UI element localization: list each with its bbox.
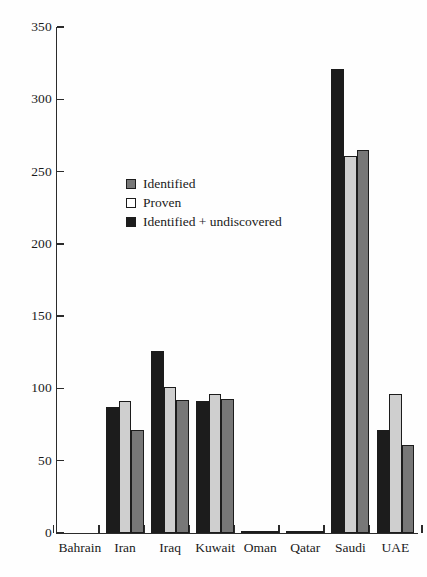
bar-iran-identified-undiscovered (106, 407, 119, 533)
bar-qatar-identified (312, 531, 325, 533)
legend-label: Proven (143, 196, 181, 210)
y-tick-50 (57, 460, 64, 461)
bar-saudi-identified-undiscovered (331, 69, 344, 533)
y-tick-label: 100 (4, 381, 52, 395)
legend-item-proven[interactable]: Proven (126, 195, 282, 211)
bar-oman-identified-undiscovered (241, 531, 254, 533)
x-axis-label-bahrain: Bahrain (59, 540, 102, 556)
bar-oman-proven (254, 531, 267, 533)
y-tick-label: 300 (4, 92, 52, 106)
bar-oman-identified (267, 531, 280, 533)
chart-legend: IdentifiedProvenIdentified + undiscovere… (126, 176, 282, 233)
y-tick-150 (57, 315, 64, 316)
y-tick-100 (57, 388, 64, 389)
x-axis-label-iraq: Iraq (159, 540, 181, 556)
bar-iran-proven (119, 401, 132, 533)
bar-kuwait-identified (221, 399, 234, 533)
y-tick-350 (57, 26, 64, 27)
y-tick-label: 0 (4, 526, 52, 540)
legend-label: Identified + undiscovered (143, 215, 282, 229)
x-tick-bahrain (53, 525, 54, 533)
legend-swatch-icon (126, 179, 136, 189)
bar-kuwait-proven (209, 394, 222, 533)
x-tick-end (421, 525, 422, 533)
bar-iraq-identified (176, 400, 189, 533)
bar-iraq-identified-undiscovered (151, 351, 164, 533)
y-tick-300 (57, 99, 64, 100)
bar-qatar-proven (299, 531, 312, 533)
y-axis-line (56, 27, 57, 534)
x-axis-label-iran: Iran (114, 540, 136, 556)
legend-swatch-icon (126, 217, 136, 227)
x-tick-iran (98, 525, 99, 533)
x-axis-label-saudi: Saudi (335, 540, 366, 556)
bar-uae-proven (389, 394, 402, 533)
y-tick-250 (57, 171, 64, 172)
plot-area: 050100150200250300350 BahrainIranIraqKuw… (0, 0, 427, 577)
bar-saudi-proven (344, 156, 357, 533)
bar-kuwait-identified-undiscovered (196, 401, 209, 533)
y-tick-label: 250 (4, 165, 52, 179)
bar-chart: 050100150200250300350 BahrainIranIraqKuw… (0, 0, 427, 577)
x-axis-label-kuwait: Kuwait (195, 540, 235, 556)
x-axis-line (56, 533, 418, 534)
x-axis-label-qatar: Qatar (290, 540, 320, 556)
legend-label: Identified (143, 177, 195, 191)
y-tick-200 (57, 243, 64, 244)
bar-iran-identified (131, 430, 144, 533)
bar-saudi-identified (357, 150, 370, 533)
y-tick-0 (57, 532, 64, 533)
bar-uae-identified-undiscovered (377, 430, 390, 533)
y-tick-label: 200 (4, 237, 52, 251)
bar-iraq-proven (164, 387, 177, 533)
y-tick-label: 150 (4, 309, 52, 323)
legend-item-identified-undiscovered[interactable]: Identified + undiscovered (126, 214, 282, 230)
x-axis-label-oman: Oman (244, 540, 277, 556)
legend-item-identified[interactable]: Identified (126, 176, 282, 192)
x-axis-label-uae: UAE (382, 540, 410, 556)
y-tick-label: 50 (4, 454, 52, 468)
legend-swatch-icon (126, 198, 136, 208)
bar-qatar-identified-undiscovered (286, 531, 299, 533)
bar-uae-identified (402, 445, 415, 533)
y-tick-label: 350 (4, 20, 52, 34)
